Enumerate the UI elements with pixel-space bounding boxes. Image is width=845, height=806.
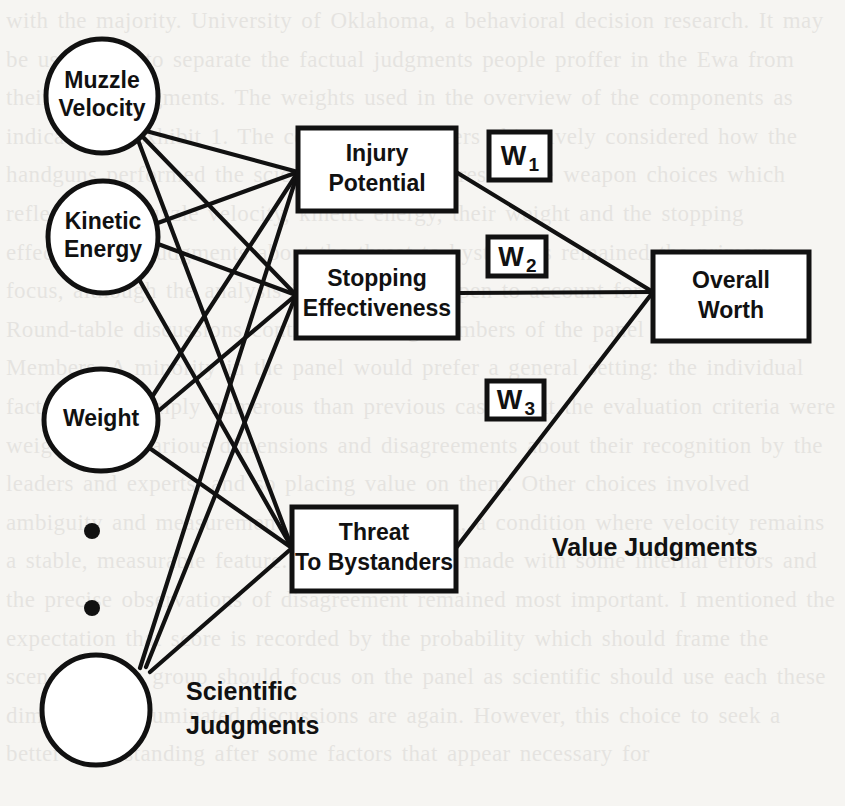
weight-box-w2[interactable]: W2 (488, 237, 546, 276)
group-label-value-judgments: Value Judgments (552, 533, 758, 561)
group-label-scientific-judgments: ScientificJudgments (186, 677, 319, 739)
edge-kinetic-energy-to-stopping-effectiveness (158, 244, 296, 295)
overall-worth-node: OverallWorth (653, 252, 809, 341)
weight-box-w1[interactable]: W1 (489, 132, 550, 180)
ellipsis-dots (84, 523, 100, 616)
weight-boxes-layer: W1W2W3 (487, 132, 550, 419)
w2-subscript-label: 2 (526, 255, 537, 276)
kinetic-energy-label-line1: Kinetic (65, 208, 142, 234)
node-threat-to-bystanders[interactable]: ThreatTo Bystanders (292, 507, 456, 591)
edge-kinetic-energy-to-injury-potential (155, 172, 298, 224)
kinetic-energy-label-line2: Energy (64, 236, 142, 262)
threat-to-bystanders-label-line1: Threat (339, 519, 410, 545)
stopping-effectiveness-label-line2: Effectiveness (303, 295, 451, 321)
injury-potential-label-line2: Potential (328, 170, 425, 196)
value-tree-diagram: MuzzleVelocityKineticEnergyWeight Injury… (0, 0, 845, 806)
weight-box-w3[interactable]: W3 (487, 381, 544, 419)
w2-base-label: W (498, 242, 524, 272)
w3-base-label: W (497, 385, 523, 415)
w1-base-label: W (501, 141, 527, 171)
node-muzzle-velocity[interactable]: MuzzleVelocity (46, 39, 158, 153)
node-injury-potential[interactable]: InjuryPotential (298, 128, 456, 211)
overall-worth-label-line1: Overall (692, 267, 770, 293)
node-unlabeled-attribute[interactable] (42, 655, 150, 765)
scientific-judgments-line2: Judgments (186, 711, 319, 739)
node-overall-worth[interactable]: OverallWorth (653, 252, 809, 341)
objective-boxes-layer: InjuryPotentialStoppingEffectivenessThre… (292, 128, 458, 591)
muzzle-velocity-label-line2: Velocity (59, 95, 146, 121)
threat-to-bystanders-label-line2: To Bystanders (295, 549, 453, 575)
ellipsis-dot-1 (84, 523, 100, 539)
stopping-effectiveness-label-line1: Stopping (327, 265, 427, 291)
w3-subscript-label: 3 (525, 398, 536, 419)
diagram-canvas: with the majority. University of Oklahom… (0, 0, 845, 806)
edge-weight-to-threat-to-bystanders (148, 447, 292, 548)
value-judgments-line1: Value Judgments (552, 533, 758, 561)
scientific-judgments-line1: Scientific (186, 677, 297, 705)
injury-potential-label-line1: Injury (346, 140, 409, 166)
node-kinetic-energy[interactable]: KineticEnergy (48, 181, 158, 293)
node-stopping-effectiveness[interactable]: StoppingEffectiveness (296, 252, 458, 338)
overall-worth-label-line2: Worth (698, 297, 764, 323)
node-weight[interactable]: Weight (44, 369, 158, 471)
w1-subscript-label: 1 (529, 154, 540, 175)
unlabeled-attribute-ellipse-shape (42, 655, 150, 765)
ellipsis-dot-2 (84, 600, 100, 616)
edge-stopping-effectiveness-to-overall-worth (458, 292, 653, 293)
muzzle-velocity-label-line1: Muzzle (64, 67, 139, 93)
edge-kinetic-energy-to-threat-to-bystanders (140, 281, 292, 548)
weight-label-line1: Weight (63, 405, 140, 431)
